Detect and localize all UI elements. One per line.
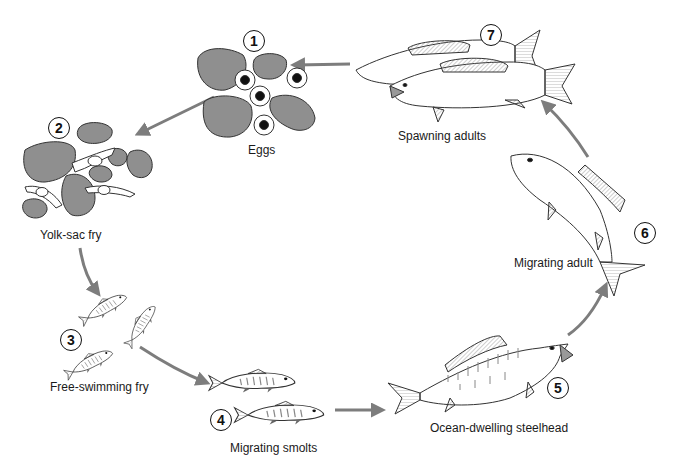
arrow-3-to-4	[140, 347, 205, 382]
spawning-adults-illustration	[356, 30, 575, 122]
arrow-2-to-3	[80, 248, 97, 292]
egg	[250, 86, 270, 106]
yolk-sac-fry-illustration	[23, 123, 153, 218]
arrow-6-to-7	[545, 104, 588, 157]
stage-6-label: Migrating adult	[514, 256, 593, 270]
stage-2-label: Yolk-sac fry	[40, 228, 102, 242]
stage-2-number: 2	[48, 117, 70, 139]
egg	[254, 115, 274, 135]
stage-1-number: 1	[243, 30, 265, 52]
egg	[235, 70, 255, 90]
stage-3-number: 3	[60, 329, 82, 351]
stage-6-number: 6	[634, 222, 656, 244]
stage-7-number: 7	[480, 24, 502, 46]
arrow-5-to-6	[568, 287, 605, 335]
stage-3-label: Free-swimming fry	[50, 380, 149, 394]
stage-7-label: Spawning adults	[398, 129, 486, 143]
migrating-adult-illustration	[511, 154, 645, 296]
stage-4-number: 4	[210, 409, 232, 431]
egg	[287, 68, 307, 88]
ocean-steelhead-illustration	[388, 336, 573, 414]
stage-4-label: Migrating smolts	[230, 441, 317, 455]
stage-5-number: 5	[547, 377, 569, 399]
stage-1-label: Eggs	[248, 143, 275, 157]
arrow-7-to-1	[296, 64, 350, 65]
steelhead-life-cycle-diagram: 1 2 3 4 5 6 7 Eggs Yolk-sac fry Free-swi…	[0, 0, 674, 469]
eggs-illustration	[198, 49, 315, 137]
stage-5-label: Ocean-dwelling steelhead	[430, 421, 568, 435]
